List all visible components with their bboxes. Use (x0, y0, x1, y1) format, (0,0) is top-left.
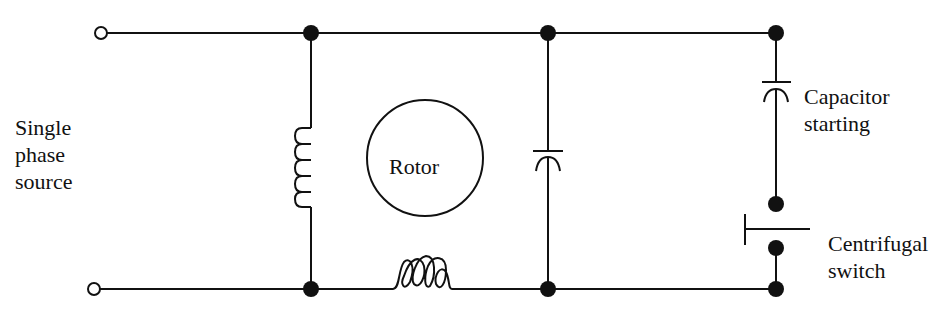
junction-dot (540, 281, 556, 297)
junction-dot (768, 25, 784, 41)
source-label: Single phase source (15, 114, 72, 195)
junction-dot (768, 281, 784, 297)
switch-contact-dot (768, 240, 784, 256)
centrifugal-switch-label: Centrifugal switch (828, 230, 928, 284)
junction-dot (303, 25, 319, 41)
rotor-label: Rotor (389, 153, 439, 180)
terminal-bottom (88, 283, 100, 295)
switch-contact-dot (768, 196, 784, 212)
auxiliary-winding-coil (393, 256, 452, 289)
circuit-diagram (0, 0, 951, 310)
main-winding-inductor (295, 128, 311, 207)
capacitor-starting-label: Capacitor starting (804, 83, 890, 137)
junction-dot (540, 25, 556, 41)
terminal-top (95, 27, 107, 39)
junction-dot (303, 281, 319, 297)
